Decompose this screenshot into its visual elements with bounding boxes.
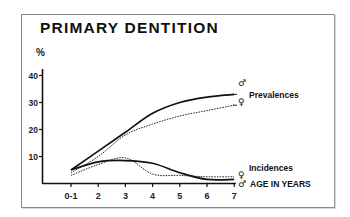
x-tick-label: 4 bbox=[150, 191, 155, 201]
female-symbol-icon: ♀ bbox=[238, 97, 245, 107]
y-tick-label: 20 bbox=[29, 125, 39, 135]
incidences-female-line bbox=[71, 158, 234, 177]
male-symbol-icon: ♂ bbox=[238, 78, 246, 88]
y-axis: 10203040 bbox=[29, 69, 43, 184]
x-tick-label: 2 bbox=[96, 191, 101, 201]
x-axis: 0-1234567 bbox=[42, 184, 237, 201]
y-tick-label: 10 bbox=[29, 152, 39, 162]
x-tick-label: 0-1 bbox=[64, 191, 77, 201]
prevalences-label: Prevalences bbox=[249, 90, 299, 100]
series-layer bbox=[71, 94, 237, 180]
x-tick-label: 7 bbox=[232, 191, 237, 201]
x-axis-label: AGE IN YEARS bbox=[250, 179, 311, 189]
plot-area: 10203040 0-1234567 ♂ Prevalences ♀ ♀ Inc… bbox=[0, 0, 350, 217]
male-symbol-icon: ♂ bbox=[238, 179, 246, 189]
incidence-legend: ♀ Incidences ♂ AGE IN YEARS bbox=[238, 163, 311, 189]
prevalence-legend: ♂ Prevalences ♀ bbox=[238, 78, 299, 107]
y-tick-label: 30 bbox=[29, 98, 39, 108]
y-tick-label: 40 bbox=[29, 71, 39, 81]
x-tick-label: 6 bbox=[204, 191, 209, 201]
x-tick-label: 3 bbox=[123, 191, 128, 201]
incidences-label: Incidences bbox=[249, 163, 293, 173]
x-tick-label: 5 bbox=[177, 191, 182, 201]
